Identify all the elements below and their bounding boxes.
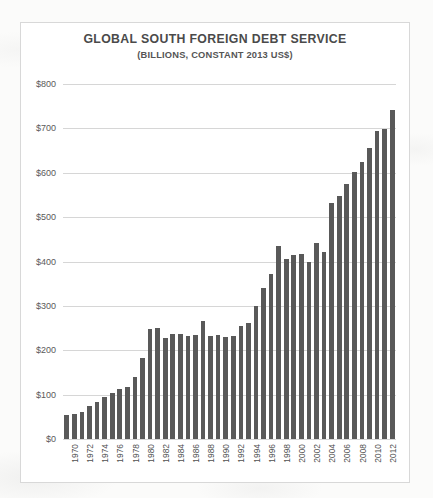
bar <box>276 246 281 439</box>
bar <box>269 274 274 439</box>
bar <box>201 321 206 439</box>
chart-title: GLOBAL SOUTH FOREIGN DEBT SERVICE <box>21 32 409 46</box>
y-axis-tick-label: $400 <box>36 257 56 267</box>
y-axis-tick-label: $100 <box>36 390 56 400</box>
bar <box>307 262 312 440</box>
bar <box>208 336 213 439</box>
x-axis-tick-label: 1972 <box>85 444 95 463</box>
x-axis-tick-label: 1992 <box>236 444 246 463</box>
bar <box>125 387 130 439</box>
x-axis-tick-label: 2006 <box>342 444 352 463</box>
x-axis-tick-label: 1988 <box>206 444 216 463</box>
bar <box>140 358 145 439</box>
bar <box>382 129 387 439</box>
plot-area: $0$100$200$300$400$500$600$700$800 19701… <box>63 84 396 439</box>
x-axis-tick-label: 1974 <box>100 444 110 463</box>
y-axis-tick-label: $700 <box>36 123 56 133</box>
bar <box>72 414 77 439</box>
bar <box>80 412 85 440</box>
bar <box>322 252 327 439</box>
bar <box>102 397 107 439</box>
bar <box>329 203 334 439</box>
x-axis-tick-label: 2010 <box>373 444 383 463</box>
bar <box>186 336 191 439</box>
x-axis-tick-label: 1976 <box>115 444 125 463</box>
x-axis-tick-label: 1980 <box>146 444 156 463</box>
bar <box>170 334 175 439</box>
bar <box>193 335 198 439</box>
scanned-page-background: GLOBAL SOUTH FOREIGN DEBT SERVICE (BILLI… <box>0 0 433 498</box>
x-axis-tick-label: 1970 <box>70 444 80 463</box>
bar <box>95 402 100 439</box>
bar <box>390 110 395 439</box>
bar <box>261 288 266 439</box>
bar <box>117 389 122 439</box>
bar <box>163 338 168 439</box>
bar <box>254 306 259 439</box>
x-axis-tick-label: 1978 <box>131 444 141 463</box>
bar-series <box>63 84 396 439</box>
bar <box>246 323 251 439</box>
bar <box>375 131 380 439</box>
x-axis-tick-label: 1994 <box>252 444 262 463</box>
bar <box>216 335 221 439</box>
x-axis-tick-label: 1986 <box>191 444 201 463</box>
y-axis-tick-label: $0 <box>46 434 56 444</box>
bar <box>284 259 289 439</box>
x-axis-tick-label: 1996 <box>267 444 277 463</box>
bar <box>299 254 304 439</box>
bar <box>64 415 69 439</box>
y-axis-tick-label: $600 <box>36 168 56 178</box>
chart-frame: GLOBAL SOUTH FOREIGN DEBT SERVICE (BILLI… <box>20 22 410 483</box>
x-axis-tick-label: 1984 <box>176 444 186 463</box>
x-axis-tick-label: 1998 <box>282 444 292 463</box>
chart-subtitle: (BILLIONS, CONSTANT 2013 US$) <box>21 50 409 60</box>
bar <box>291 255 296 439</box>
bar <box>239 326 244 439</box>
bar <box>337 196 342 439</box>
x-axis-tick-label: 1990 <box>221 444 231 463</box>
gridline <box>63 439 396 440</box>
bar <box>110 393 115 439</box>
bar <box>155 328 160 439</box>
y-axis-tick-label: $500 <box>36 212 56 222</box>
y-axis-tick-label: $300 <box>36 301 56 311</box>
bar <box>360 162 365 439</box>
bar <box>231 336 236 439</box>
bar <box>133 377 138 439</box>
bar <box>223 337 228 439</box>
x-axis-tick-label: 2002 <box>312 444 322 463</box>
x-axis-tick-label: 2008 <box>358 444 368 463</box>
x-axis-tick-label: 2000 <box>297 444 307 463</box>
x-axis-tick-label: 2004 <box>327 444 337 463</box>
bar <box>367 148 372 439</box>
x-axis-tick-label: 2012 <box>388 444 398 463</box>
y-axis-tick-label: $800 <box>36 79 56 89</box>
bar <box>314 243 319 439</box>
bar <box>87 406 92 439</box>
bar <box>344 184 349 439</box>
bar <box>352 172 357 439</box>
x-axis-tick-label: 1982 <box>161 444 171 463</box>
bar <box>178 334 183 439</box>
bar <box>148 329 153 439</box>
y-axis-tick-label: $200 <box>36 345 56 355</box>
